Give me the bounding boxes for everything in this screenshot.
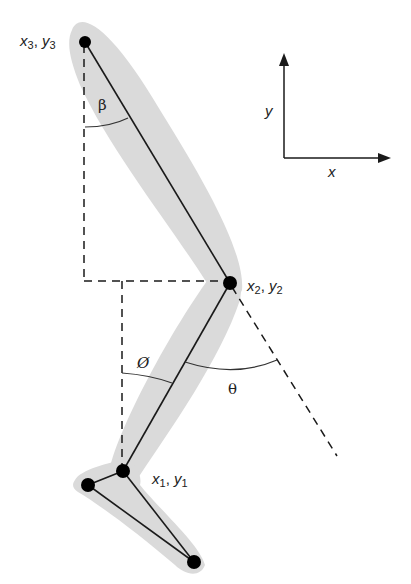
leg-diagram: y x x3, y3 x2, y2 x1, y1 β Ø θ xyxy=(0,0,411,584)
thigh-line xyxy=(85,42,230,283)
beta-label: β xyxy=(98,96,107,114)
knee-joint xyxy=(223,276,237,290)
shank-line xyxy=(123,283,230,471)
thigh-extension-dashed xyxy=(232,287,337,456)
theta-label: θ xyxy=(228,380,237,398)
ankle-joint xyxy=(116,464,130,478)
ankle-label: x1, y1 xyxy=(151,470,188,489)
knee-label: x2, y2 xyxy=(246,277,283,296)
toe-joint xyxy=(187,555,201,569)
phi-label: Ø xyxy=(136,354,150,372)
hip-label: x3, y3 xyxy=(19,32,56,51)
x-axis-label: x xyxy=(327,163,336,180)
y-axis-label: y xyxy=(264,102,274,119)
hip-joint xyxy=(79,36,91,48)
shank-segment xyxy=(110,268,241,482)
x-axis-arrow-icon xyxy=(378,153,391,163)
y-axis-arrow-icon xyxy=(279,53,289,66)
heel-joint xyxy=(81,478,95,492)
